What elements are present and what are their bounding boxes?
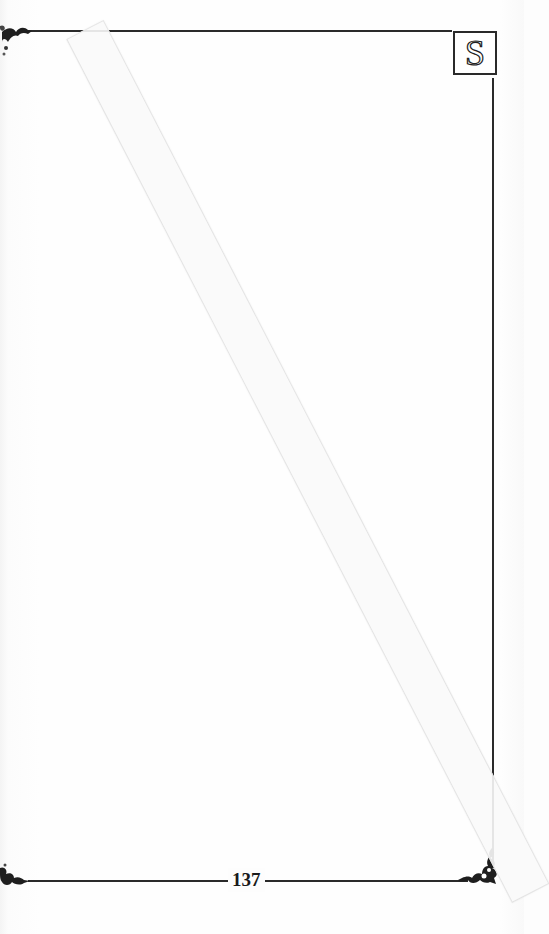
corner-ornament-bottom-left-icon (0, 862, 40, 892)
page-number: 137 (228, 868, 265, 892)
letter-tab-label: S (465, 35, 485, 71)
right-border-line (492, 78, 494, 868)
corner-ornament-top-left-icon (0, 18, 34, 58)
letter-tab: S (453, 31, 497, 75)
